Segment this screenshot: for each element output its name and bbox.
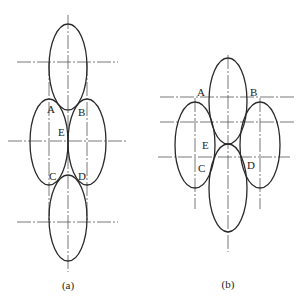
figure-b-point-a-label: A bbox=[197, 86, 205, 98]
figure-a: A B E C D (a) bbox=[8, 15, 127, 292]
figure-b: A B E C D (b) bbox=[158, 55, 294, 291]
figure-b-caption: (b) bbox=[222, 278, 235, 291]
figure-a-point-b-label: B bbox=[78, 106, 85, 118]
figure-a-point-d-label: D bbox=[78, 170, 86, 182]
figure-b-point-e-label: E bbox=[202, 139, 209, 151]
figure-b-point-b-label: B bbox=[250, 86, 257, 98]
figure-b-point-c-label: C bbox=[198, 162, 205, 174]
ellipse-tangency-diagram: A B E C D (a) A B E C D bbox=[0, 0, 298, 297]
figure-a-caption: (a) bbox=[62, 279, 75, 292]
figure-a-point-e-label: E bbox=[58, 126, 65, 138]
figure-a-point-c-label: C bbox=[49, 170, 56, 182]
figure-b-point-d-label: D bbox=[247, 159, 255, 171]
figure-a-point-a-label: A bbox=[47, 103, 55, 115]
